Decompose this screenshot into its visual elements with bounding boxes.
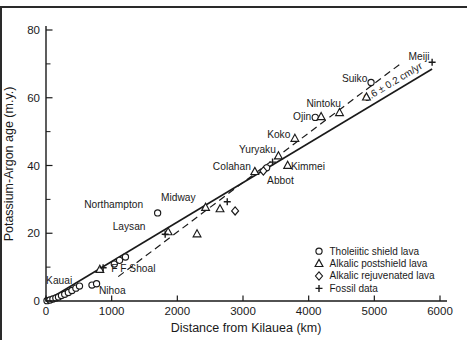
y-tick-label: 20 <box>27 227 40 239</box>
data-point-fossil-data <box>429 59 436 66</box>
volcano-label-yuryaku: Yuryaku <box>239 144 276 155</box>
volcano-label-meiji: Meiji <box>409 51 430 62</box>
x-tick-label: 1000 <box>99 305 125 317</box>
data-point-tholeiitic-shield-lava <box>76 283 82 289</box>
y-tick-label: 0 <box>34 295 40 307</box>
legend-marker-circle <box>316 248 322 254</box>
x-tick-label: 6000 <box>427 305 453 317</box>
volcano-label-nintoku: Nintoku <box>306 98 341 109</box>
legend-marker-diamond <box>316 272 323 280</box>
data-point-tholeiitic-shield-lava <box>122 254 128 260</box>
legend-label: Alkalic postshield lava <box>330 258 428 269</box>
volcano-label-f-f-shoal: F F Shoal <box>111 263 155 274</box>
x-tick-label: 4000 <box>296 305 322 317</box>
x-axis-title: Distance from Kilauea (km) <box>171 321 322 335</box>
volcano-label-ojin: Ojin <box>293 111 311 122</box>
data-point-alkalic-rejuvenated-lava <box>232 207 239 215</box>
volcano-label-colahan: Colahan <box>213 161 251 172</box>
figure-page: 8.6 ± 0.2 cm/yrKauaiNihoaF F ShoalLaysan… <box>0 0 467 349</box>
y-axis-title: Potassium-Argon age (m.y.) <box>2 87 16 242</box>
volcano-label-koko: Koko <box>267 129 291 140</box>
data-point-alkalic-postshield-lava <box>291 134 299 141</box>
legend-marker-triangle <box>315 259 323 266</box>
volcano-label-midway: Midway <box>161 192 196 203</box>
y-tick-label: 40 <box>27 160 40 172</box>
x-tick-label: 3000 <box>230 305 256 317</box>
volcano-label-laysan: Laysan <box>113 221 146 232</box>
volcano-label-kauai: Kauai <box>46 275 72 286</box>
trend-line-dashed <box>118 62 402 276</box>
legend-label: Alkalic rejuvenated lava <box>330 270 435 281</box>
x-tick-label: 2000 <box>165 305 191 317</box>
data-point-tholeiitic-shield-lava <box>155 210 161 216</box>
y-tick-label: 80 <box>27 24 40 36</box>
legend-label: Fossil data <box>330 283 379 294</box>
volcano-label-abbot: Abbot <box>267 175 294 186</box>
data-point-alkalic-postshield-lava <box>216 205 224 212</box>
volcano-label-northampton: Northampton <box>84 199 143 210</box>
volcano-label-nihoa: Nihoa <box>99 285 126 296</box>
x-tick-label: 5000 <box>362 305 388 317</box>
legend-label: Tholeiitic shield lava <box>330 246 420 257</box>
x-tick-label: 0 <box>43 305 49 317</box>
k-ar-age-vs-distance-chart: 8.6 ± 0.2 cm/yrKauaiNihoaF F ShoalLaysan… <box>0 0 467 349</box>
data-point-fossil-data <box>269 159 276 166</box>
legend-marker-cross <box>316 285 323 292</box>
y-tick-label: 60 <box>27 92 40 104</box>
data-point-tholeiitic-shield-lava <box>368 79 374 85</box>
data-point-alkalic-postshield-lava <box>193 230 201 237</box>
data-point-fossil-data <box>224 198 231 205</box>
volcano-label-kimmei: Kimmei <box>291 161 325 172</box>
data-point-alkalic-postshield-lava <box>336 108 344 115</box>
volcano-label-suiko: Suiko <box>342 73 368 84</box>
